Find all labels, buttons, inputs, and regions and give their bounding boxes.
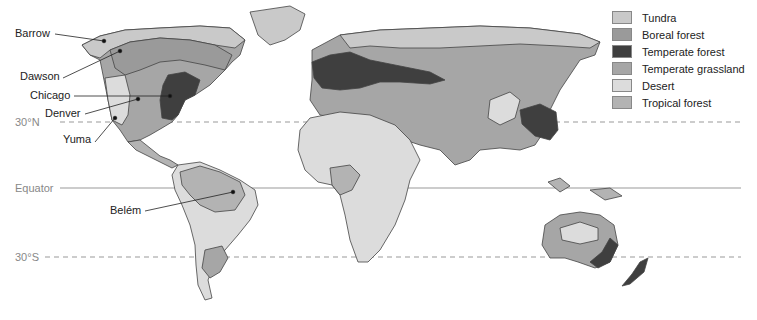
legend-label: Temperate grassland (642, 63, 745, 75)
legend-label: Boreal forest (642, 29, 704, 41)
legend-label: Tropical forest (642, 97, 711, 109)
africa (298, 112, 420, 262)
barrow-dot (102, 39, 106, 43)
dawson-dot (118, 49, 122, 53)
legend-label: Desert (642, 80, 674, 92)
city-label-yuma: Yuma (63, 133, 91, 145)
denver-dot (136, 97, 140, 101)
legend-item-temperate-forest: Temperate forest (612, 43, 745, 60)
city-label-denver: Denver (45, 107, 80, 119)
lat-label-30s: 30°S (15, 251, 39, 263)
belem-dot (231, 190, 235, 194)
biome-legend: Tundra Boreal forest Temperate forest Te… (612, 9, 745, 111)
lat-label-equator: Equator (15, 182, 54, 194)
legend-label: Temperate forest (642, 46, 725, 58)
se-asia-islands (548, 178, 622, 200)
chicago-dot (168, 94, 172, 98)
legend-item-temperate-grassland: Temperate grassland (612, 60, 745, 77)
central-america (128, 140, 178, 168)
city-label-dawson: Dawson (20, 70, 60, 82)
yuma-dot (113, 116, 117, 120)
legend-swatch-temperate-forest (612, 45, 632, 58)
city-label-belem: Belém (110, 204, 141, 216)
legend-label: Tundra (642, 12, 676, 24)
eurasia-tundra (340, 26, 600, 48)
city-label-barrow: Barrow (15, 27, 50, 39)
sa-grassland (202, 246, 228, 278)
legend-swatch-temperate-grassland (612, 62, 632, 75)
legend-swatch-tropical-forest (612, 96, 632, 109)
legend-item-desert: Desert (612, 77, 745, 94)
new-zealand (622, 258, 648, 286)
lat-label-30n: 30°N (15, 116, 40, 128)
legend-item-tundra: Tundra (612, 9, 745, 26)
na-desert (105, 75, 130, 125)
greenland (250, 6, 305, 45)
legend-swatch-boreal-forest (612, 28, 632, 41)
legend-swatch-tundra (612, 11, 632, 24)
legend-item-boreal-forest: Boreal forest (612, 26, 745, 43)
city-label-chicago: Chicago (30, 89, 70, 101)
legend-item-tropical-forest: Tropical forest (612, 94, 745, 111)
legend-swatch-desert (612, 79, 632, 92)
